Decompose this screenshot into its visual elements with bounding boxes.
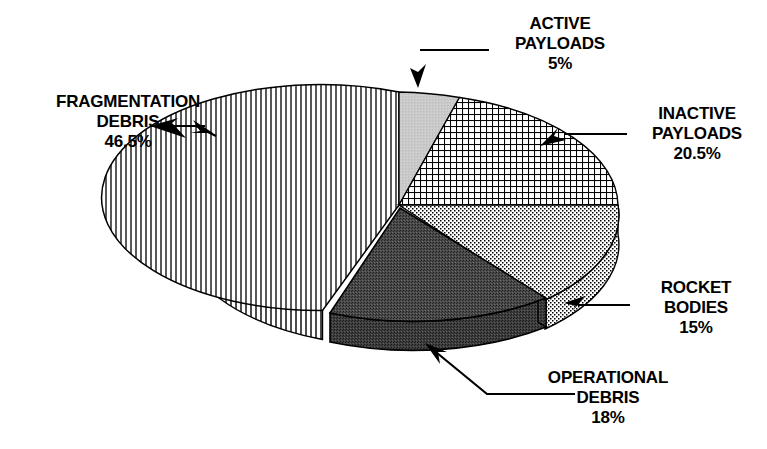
- label-inactive-payloads: INACTIVE PAYLOADS 20.5%: [628, 104, 766, 164]
- label-rocket-line2: BODIES: [632, 298, 760, 318]
- label-inactive-value: 20.5%: [628, 144, 766, 164]
- label-active-value: 5%: [490, 54, 630, 74]
- label-operational-value: 18%: [520, 408, 696, 428]
- label-operational-line1: OPERATIONAL: [520, 368, 696, 388]
- label-fragmentation-value: 46.5%: [18, 132, 238, 152]
- label-fragmentation-line1: FRAGMENTATION: [18, 92, 238, 112]
- label-inactive-line2: PAYLOADS: [628, 124, 766, 144]
- pie-chart-figure: FRAGMENTATION DEBRIS 46.5% ACTIVE PAYLOA…: [0, 0, 767, 449]
- label-active-payloads: ACTIVE PAYLOADS 5%: [490, 14, 630, 74]
- arrowhead-active-tip: [410, 64, 426, 88]
- label-fragmentation-debris: FRAGMENTATION DEBRIS 46.5%: [18, 92, 238, 152]
- label-rocket-bodies: ROCKET BODIES 15%: [632, 278, 760, 338]
- label-operational-line2: DEBRIS: [520, 388, 696, 408]
- label-fragmentation-line2: DEBRIS: [18, 112, 238, 132]
- label-rocket-line1: ROCKET: [632, 278, 760, 298]
- label-operational-debris: OPERATIONAL DEBRIS 18%: [520, 368, 696, 428]
- label-rocket-value: 15%: [632, 318, 760, 338]
- label-inactive-line1: INACTIVE: [628, 104, 766, 124]
- label-active-line1: ACTIVE: [490, 14, 630, 34]
- label-active-line2: PAYLOADS: [490, 34, 630, 54]
